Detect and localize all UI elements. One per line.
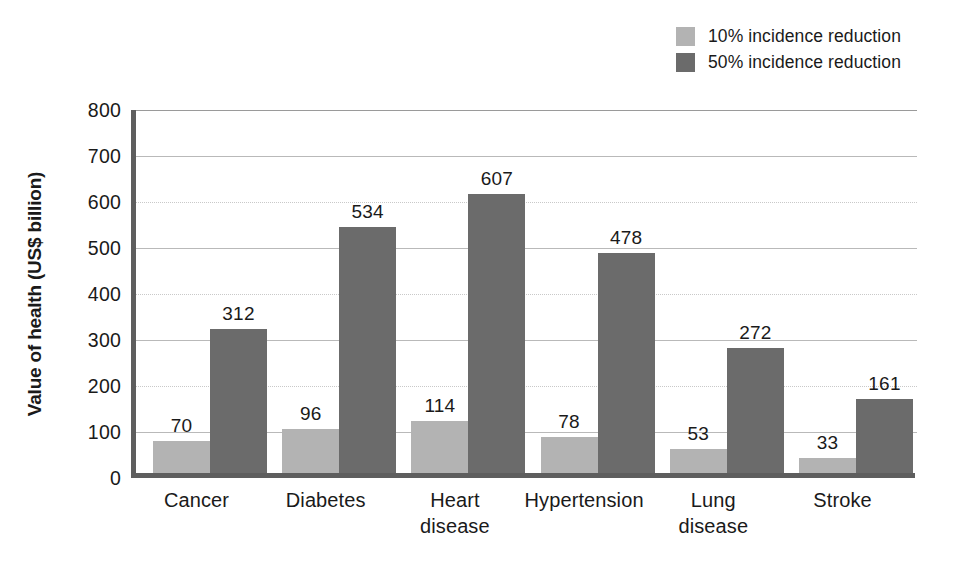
bar: 272 — [727, 348, 784, 473]
bar-value-label: 272 — [739, 322, 771, 344]
bar: 161 — [856, 399, 913, 473]
x-axis-label-line: Stroke — [763, 487, 923, 513]
bar: 70 — [153, 441, 210, 473]
bar-group: 96534 — [265, 110, 396, 473]
bar-value-label: 534 — [352, 201, 384, 223]
bar-group: 53272 — [653, 110, 784, 473]
chart-legend: 10% incidence reduction 50% incidence re… — [676, 27, 901, 72]
bar: 96 — [282, 429, 339, 473]
y-axis-title: Value of health (US$ billion) — [18, 110, 52, 478]
bar-value-label: 161 — [868, 373, 900, 395]
y-tick-label-300: 300 — [88, 329, 121, 352]
bar-chart: 10% incidence reduction 50% incidence re… — [0, 0, 964, 562]
bar-group: 70312 — [136, 110, 267, 473]
legend-item-50-percent: 50% incidence reduction — [676, 53, 901, 72]
bar: 78 — [541, 437, 598, 473]
y-tick-label-600: 600 — [88, 191, 121, 214]
bar-group: 114607 — [394, 110, 525, 473]
bar: 534 — [339, 227, 396, 473]
bar: 33 — [799, 458, 856, 473]
bar-value-label: 607 — [481, 168, 513, 190]
bar-group: 33161 — [782, 110, 913, 473]
x-axis-label-line: disease — [375, 513, 535, 539]
bar-value-label: 96 — [300, 403, 322, 425]
legend-swatch-icon-light — [676, 27, 695, 46]
bar-value-label: 70 — [171, 415, 193, 437]
plot-area: 7031296534114607784785327233161 — [131, 110, 915, 478]
bar-value-label: 478 — [610, 227, 642, 249]
x-axis-category-labels: CancerDiabetesHeartdiseaseHypertensionLu… — [131, 487, 915, 557]
x-axis-label: Stroke — [763, 487, 923, 513]
x-axis-label-line: disease — [633, 513, 793, 539]
y-tick-label-200: 200 — [88, 375, 121, 398]
y-tick-label-500: 500 — [88, 237, 121, 260]
legend-swatch-icon-dark — [676, 53, 695, 72]
legend-item-10-percent: 10% incidence reduction — [676, 27, 901, 46]
bar: 53 — [670, 449, 727, 473]
bar-value-label: 78 — [558, 411, 580, 433]
bar: 607 — [468, 194, 525, 473]
bar-value-label: 33 — [817, 432, 839, 454]
legend-label-10-percent: 10% incidence reduction — [708, 26, 901, 47]
bar-value-label: 53 — [688, 423, 710, 445]
bar-value-label: 312 — [222, 303, 254, 325]
bar-groups: 7031296534114607784785327233161 — [136, 110, 915, 473]
bar-group: 78478 — [524, 110, 655, 473]
bar: 312 — [210, 329, 267, 473]
bar: 114 — [411, 421, 468, 473]
y-tick-label-100: 100 — [88, 421, 121, 444]
y-tick-label-400: 400 — [88, 283, 121, 306]
bar: 478 — [598, 253, 655, 473]
legend-label-50-percent: 50% incidence reduction — [708, 52, 901, 73]
y-tick-label-800: 800 — [88, 99, 121, 122]
y-tick-label-700: 700 — [88, 145, 121, 168]
bar-value-label: 114 — [424, 395, 455, 417]
y-axis-tick-labels: 8007006005004003002001000 — [55, 110, 121, 478]
